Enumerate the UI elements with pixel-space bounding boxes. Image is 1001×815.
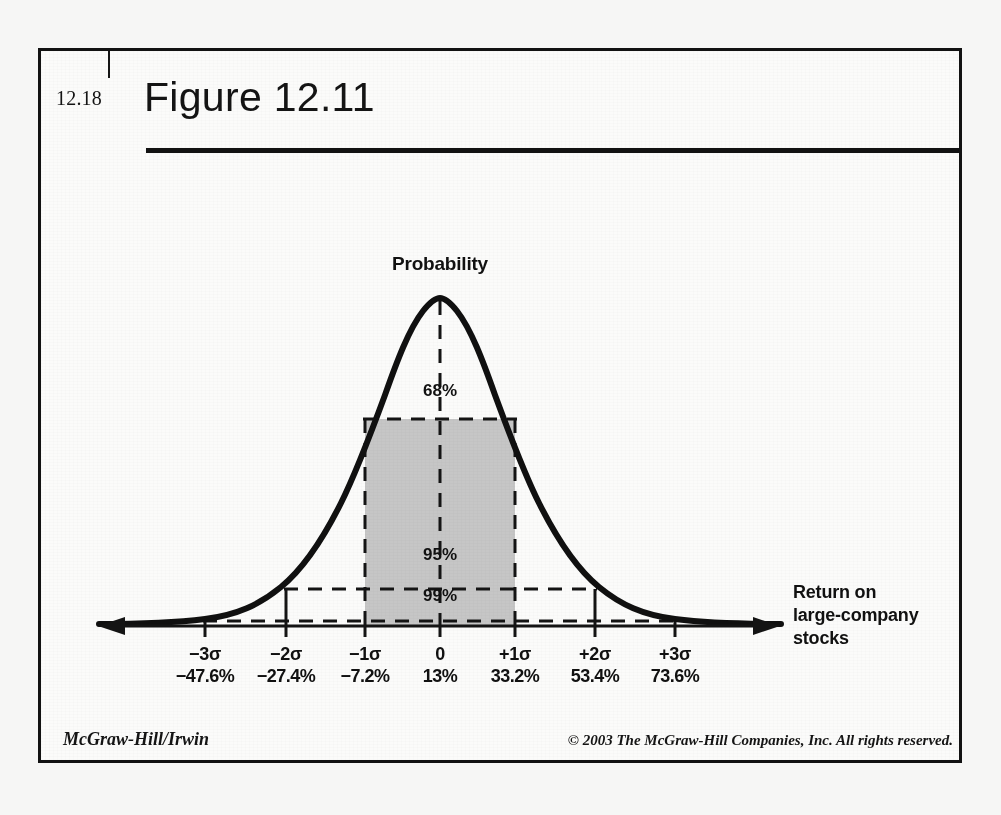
page-title: Figure 12.11 xyxy=(144,74,375,121)
annotation-68-percent: 68% xyxy=(423,381,457,401)
slide-number: 12.18 xyxy=(56,87,102,110)
title-underline-rule xyxy=(146,148,962,153)
chart-title-probability: Probability xyxy=(392,253,488,275)
slide-header: 12.18 Figure 12.11 xyxy=(41,51,959,161)
footer-publisher: McGraw-Hill/Irwin xyxy=(63,729,209,750)
annotation-99-percent: 99% xyxy=(423,586,457,606)
annotation-95-percent: 95% xyxy=(423,545,457,565)
x-axis-title: Return on large-company stocks xyxy=(793,581,918,650)
x-axis-title-line-1: Return on xyxy=(793,581,918,604)
header-divider-tick xyxy=(108,51,110,78)
x-axis-title-line-3: stocks xyxy=(793,627,918,650)
slide-frame: 12.18 Figure 12.11 xyxy=(38,48,962,763)
slide-footer: McGraw-Hill/Irwin © 2003 The McGraw-Hill… xyxy=(41,708,959,760)
normal-distribution-chart: Probability 68% 95% 99% Return on large-… xyxy=(41,161,959,681)
x-axis-title-line-2: large-company xyxy=(793,604,918,627)
footer-copyright: © 2003 The McGraw-Hill Companies, Inc. A… xyxy=(568,732,953,749)
x-axis-arrow-right xyxy=(753,617,780,635)
x-axis-arrow-left xyxy=(98,617,125,635)
